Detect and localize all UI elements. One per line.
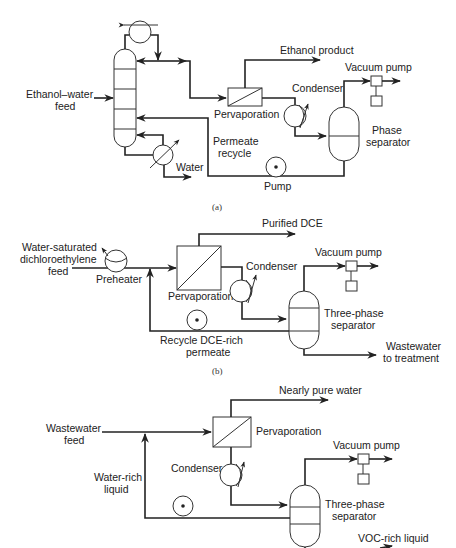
overhead-condenser-icon	[129, 21, 151, 43]
water-label: Water	[176, 161, 204, 173]
separator-label-c: Three-phase	[325, 498, 385, 510]
purified-dce-label: Purified DCE	[262, 217, 323, 229]
permeate-recycle-label2: recycle	[218, 147, 251, 159]
distillation-column	[114, 49, 136, 147]
caption-a: (a)	[212, 202, 222, 212]
condenser-label-c: Condenser	[171, 462, 223, 474]
preheater-icon	[105, 250, 127, 272]
condenser-label-a: Condenser	[292, 82, 344, 94]
phase-separator	[329, 107, 359, 161]
separator-label-b2: separator	[331, 319, 376, 331]
wastewater-label-b2: to treatment	[383, 352, 439, 364]
vacuum-pump-label-a: Vacuum pump	[345, 61, 412, 73]
pervaporation-label-a: Pervaporation	[214, 108, 280, 120]
vacuum-pump-c	[358, 454, 369, 464]
water-rich-label2: liquid	[104, 483, 129, 495]
pervaporation-label-c: Pervaporation	[256, 425, 322, 437]
condenser-label-b: Condenser	[246, 260, 298, 272]
pump-label-a: Pump	[264, 180, 292, 192]
feed-label-b3: feed	[48, 265, 69, 277]
feed-label-c: Wastewater	[46, 422, 102, 434]
three-phase-separator-c	[290, 485, 320, 547]
three-phase-separator-b	[289, 291, 319, 349]
ethanol-product-label: Ethanol product	[280, 44, 354, 56]
process-diagram: Ethanol–water feed Pervaporation Ethanol…	[0, 0, 456, 548]
separator-label-b: Three-phase	[324, 307, 384, 319]
preheater-label: Preheater	[96, 273, 143, 285]
vacuum-pump-b	[346, 261, 357, 271]
vacuum-pump-label-b: Vacuum pump	[315, 246, 382, 258]
recycle-label-b: Recycle DCE-rich	[160, 334, 243, 346]
panel-b: Water-saturated dichloroethylene feed Pr…	[20, 217, 442, 376]
feed-label-c2: feed	[64, 434, 85, 446]
permeate-recycle-label: Permeate	[213, 135, 259, 147]
recycle-label-b2: permeate	[186, 346, 231, 358]
caption-b: (b)	[212, 366, 223, 376]
phase-separator-label: Phase	[372, 124, 402, 136]
vacuum-pump-a	[371, 76, 382, 86]
feed-label-a: Ethanol–water	[26, 88, 94, 100]
voc-rich-label: VOC-rich liquid	[358, 532, 429, 544]
pervaporation-label-b: Pervaporation	[168, 290, 234, 302]
wastewater-label-b: Wastewater	[386, 340, 442, 352]
panel-c: Wastewater feed Pervaporation Nearly pur…	[46, 384, 429, 548]
feed-label-b: Water-saturated	[22, 241, 97, 253]
panel-a: Ethanol–water feed Pervaporation Ethanol…	[26, 21, 412, 212]
feed-label-b2: dichloroethylene	[20, 253, 97, 265]
condenser-icon-a	[284, 105, 306, 127]
separator-label-c2: separator	[332, 510, 377, 522]
phase-separator-label2: separator	[366, 136, 411, 148]
feed-label-a2: feed	[55, 100, 76, 112]
water-rich-label: Water-rich	[94, 471, 142, 483]
vacuum-pump-label-c: Vacuum pump	[333, 439, 400, 451]
nearly-pure-water-label: Nearly pure water	[279, 384, 362, 396]
